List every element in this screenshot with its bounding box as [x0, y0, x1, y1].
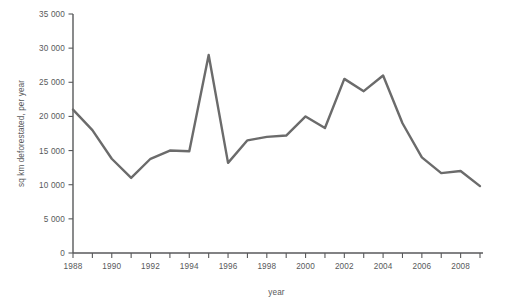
y-tick-label: 25 000 [39, 78, 65, 87]
x-axis: 1988199019921994199619982000200220042006… [64, 253, 480, 271]
x-tick-label: 1994 [180, 262, 199, 271]
y-tick-label: 20 000 [39, 112, 65, 121]
y-axis: 05 00010 00015 00020 00025 00030 00035 0… [39, 10, 73, 258]
y-tick-label: 10 000 [39, 181, 65, 190]
axis-lines [73, 14, 483, 253]
x-tick-label: 2000 [296, 262, 315, 271]
x-tick-label: 1990 [102, 262, 121, 271]
line-chart: 05 00010 00015 00020 00025 00030 00035 0… [0, 0, 506, 305]
y-tick-label: 35 000 [39, 10, 65, 19]
x-tick-label: 1988 [64, 262, 83, 271]
x-tick-label: 1998 [257, 262, 276, 271]
x-tick-label: 2008 [451, 262, 470, 271]
x-tick-label: 1996 [219, 262, 238, 271]
series-line-deforestation [73, 55, 480, 186]
y-tick-label: 5 000 [44, 215, 66, 224]
y-tick-label: 0 [60, 249, 65, 258]
x-tick-label: 2002 [335, 262, 354, 271]
x-tick-label: 2006 [412, 262, 431, 271]
x-axis-title: year [268, 288, 285, 297]
y-axis-title: sq km deforestated, per year [17, 80, 26, 187]
x-tick-label: 2004 [374, 262, 393, 271]
x-tick-label: 1992 [141, 262, 160, 271]
y-tick-label: 30 000 [39, 44, 65, 53]
data-series [73, 55, 480, 186]
chart-canvas: 05 00010 00015 00020 00025 00030 00035 0… [0, 0, 506, 305]
y-tick-label: 15 000 [39, 147, 65, 156]
